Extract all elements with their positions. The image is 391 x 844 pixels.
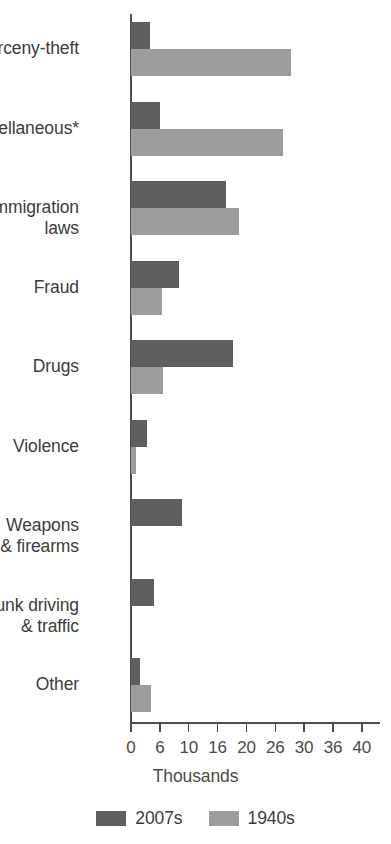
bar-1940s xyxy=(131,49,291,76)
x-axis-tick xyxy=(303,723,305,732)
bar-2007s xyxy=(131,102,160,129)
x-axis-title: Thousands xyxy=(0,766,391,787)
x-axis-tick xyxy=(361,723,363,732)
plot-area: 0610162026303640 Larceny-theftMiscellane… xyxy=(0,0,391,730)
category-label: Fraud xyxy=(0,277,79,298)
x-axis-line xyxy=(130,722,380,724)
x-axis-tick-label: 30 xyxy=(295,738,314,758)
x-axis-tick-label: 26 xyxy=(266,738,285,758)
x-axis-tick xyxy=(332,723,334,732)
category-label: Drunk driving & traffic xyxy=(0,595,79,637)
bar-1940s xyxy=(131,685,151,712)
x-axis-tick-label: 40 xyxy=(353,738,372,758)
bar-2007s xyxy=(131,22,150,49)
x-axis-tick-label: 36 xyxy=(324,738,343,758)
category-label: Larceny-theft xyxy=(0,38,79,59)
bar-2007s xyxy=(131,261,179,288)
x-axis-tick xyxy=(217,723,219,732)
bar-1940s xyxy=(131,447,136,474)
category-label: Immigration laws xyxy=(0,197,79,239)
bar-row: Drunk driving & traffic xyxy=(0,579,391,633)
bar-1940s xyxy=(131,208,239,235)
legend-swatch-1940s xyxy=(209,811,239,826)
bar-row: Miscellaneous* xyxy=(0,102,391,156)
bar-2007s xyxy=(131,340,233,367)
chart-legend: 2007s 1940s xyxy=(0,808,391,829)
category-label: Miscellaneous* xyxy=(0,118,79,139)
x-axis-tick xyxy=(188,723,190,732)
x-axis-tick-label: 16 xyxy=(208,738,227,758)
bar-row: Larceny-theft xyxy=(0,22,391,76)
x-axis-tick xyxy=(275,723,277,732)
bar-2007s xyxy=(131,499,182,526)
x-axis-tick-label: 10 xyxy=(179,738,198,758)
category-label: Other xyxy=(0,674,79,695)
category-label: Drugs xyxy=(0,356,79,377)
bar-row: Weapons & firearms xyxy=(0,499,391,553)
bar-1940s xyxy=(131,367,163,394)
legend-label-1940s: 1940s xyxy=(248,808,295,829)
bar-row: Other xyxy=(0,658,391,712)
legend-swatch-2007s xyxy=(96,811,126,826)
bar-row: Violence xyxy=(0,420,391,474)
x-axis-tick xyxy=(246,723,248,732)
category-label: Violence xyxy=(0,436,79,457)
legend-label-2007s: 2007s xyxy=(135,808,182,829)
bar-2007s xyxy=(131,181,226,208)
x-axis-tick xyxy=(130,723,132,732)
bar-chart-figure: 0610162026303640 Larceny-theftMiscellane… xyxy=(0,0,391,844)
x-axis-tick xyxy=(159,723,161,732)
x-axis-tick-label: 6 xyxy=(155,738,164,758)
bar-row: Drugs xyxy=(0,340,391,394)
bar-1940s xyxy=(131,288,162,315)
x-axis-tick-label: 20 xyxy=(237,738,256,758)
bar-row: Fraud xyxy=(0,261,391,315)
bar-row: Immigration laws xyxy=(0,181,391,235)
category-label: Weapons & firearms xyxy=(0,515,79,557)
x-axis-tick-label: 0 xyxy=(126,738,135,758)
bar-2007s xyxy=(131,579,154,606)
bar-1940s xyxy=(131,129,283,156)
legend-item-1940s: 1940s xyxy=(209,808,295,829)
bar-2007s xyxy=(131,658,140,685)
legend-item-2007s: 2007s xyxy=(96,808,182,829)
bar-2007s xyxy=(131,420,147,447)
